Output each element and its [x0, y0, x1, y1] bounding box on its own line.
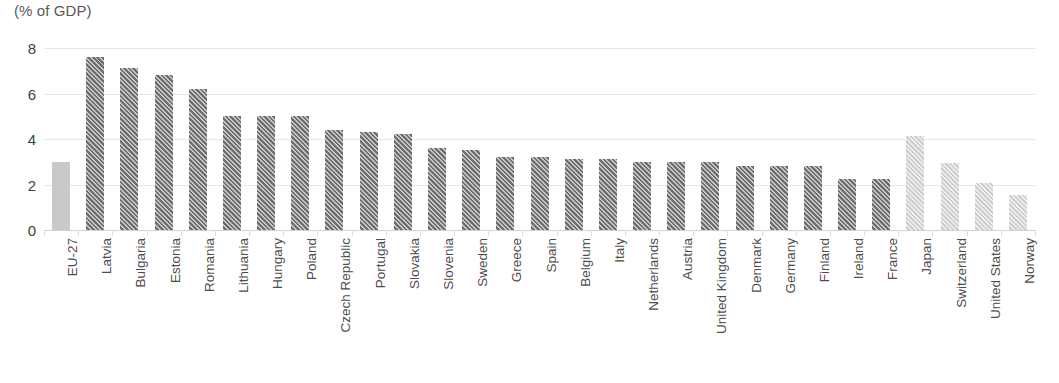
x-axis-category-label: Sweden	[476, 238, 490, 287]
bar	[155, 75, 173, 230]
x-axis-category-label: Norway	[1023, 238, 1037, 284]
chart-title: (% of GDP)	[14, 2, 92, 19]
x-axis-tick	[215, 230, 216, 236]
x-axis-category-label: Italy	[613, 238, 627, 263]
x-axis-category-label: United Kingdom	[715, 238, 729, 334]
y-axis-tick-label: 8	[6, 41, 36, 56]
x-axis-tick	[420, 230, 421, 236]
x-axis-category-label: Netherlands	[647, 238, 661, 311]
x-axis-category-label: Bulgaria	[134, 238, 148, 288]
y-axis-tick-label: 2	[6, 178, 36, 193]
x-axis-category-label: Portugal	[374, 238, 388, 288]
bar	[462, 150, 480, 230]
bar	[52, 162, 70, 230]
bar	[1009, 195, 1027, 230]
x-axis-tick	[78, 230, 79, 236]
x-axis-tick	[557, 230, 558, 236]
x-axis-tick	[352, 230, 353, 236]
x-axis-category-label: France	[886, 238, 900, 280]
x-axis-category-label: Slovakia	[408, 238, 422, 289]
bar	[496, 157, 514, 230]
bar	[599, 159, 617, 230]
bar	[189, 89, 207, 230]
bar	[360, 132, 378, 230]
x-axis-tick	[591, 230, 592, 236]
y-axis-tick-label: 0	[6, 223, 36, 238]
bar	[86, 57, 104, 230]
x-axis-tick	[898, 230, 899, 236]
x-axis-tick	[112, 230, 113, 236]
x-axis-category-label: Japan	[920, 238, 934, 275]
x-axis-tick	[454, 230, 455, 236]
x-axis-category-label: Latvia	[100, 238, 114, 274]
bar	[257, 116, 275, 230]
x-axis-category-label: Finland	[818, 238, 832, 282]
bar	[223, 116, 241, 230]
bar	[736, 166, 754, 230]
x-axis-category-label: Germany	[784, 238, 798, 294]
y-axis-tick-label: 6	[6, 87, 36, 102]
x-axis-tick	[796, 230, 797, 236]
x-axis-category-label: Belgium	[579, 238, 593, 287]
x-axis-tick	[1035, 230, 1036, 236]
x-axis-tick	[488, 230, 489, 236]
x-axis-labels: EU-27LatviaBulgariaEstoniaRomaniaLithuan…	[44, 238, 1035, 378]
x-axis-tick	[625, 230, 626, 236]
x-axis-category-label: EU-27	[66, 238, 80, 276]
bar	[428, 148, 446, 230]
x-axis-category-label: United States	[989, 238, 1003, 319]
bar	[531, 157, 549, 230]
bar	[565, 159, 583, 230]
bar	[838, 179, 856, 230]
x-axis-category-label: Slovenia	[442, 238, 456, 290]
bar	[804, 166, 822, 230]
bars-layer	[44, 48, 1035, 230]
bar	[325, 130, 343, 230]
bar	[667, 162, 685, 230]
bar	[872, 179, 890, 230]
x-axis-tick	[727, 230, 728, 236]
x-axis-category-label: Poland	[305, 238, 319, 280]
x-axis-tick	[317, 230, 318, 236]
bar	[291, 116, 309, 230]
x-axis-category-label: Denmark	[750, 238, 764, 293]
x-axis-tick	[932, 230, 933, 236]
bar	[941, 163, 959, 230]
x-axis-tick	[522, 230, 523, 236]
x-axis-ticks	[44, 230, 1035, 236]
bar-chart: (% of GDP) 02468 EU-27LatviaBulgariaEsto…	[0, 0, 1059, 383]
x-axis-tick	[249, 230, 250, 236]
x-axis-tick	[1001, 230, 1002, 236]
x-axis-category-label: Estonia	[169, 238, 183, 283]
x-axis-tick	[386, 230, 387, 236]
x-axis-tick	[147, 230, 148, 236]
x-axis-tick	[283, 230, 284, 236]
y-axis: 02468	[0, 48, 36, 230]
x-axis-tick	[762, 230, 763, 236]
x-axis-tick	[181, 230, 182, 236]
bar	[701, 162, 719, 230]
x-axis-category-label: Czech Republic	[339, 238, 353, 333]
x-axis-tick	[830, 230, 831, 236]
bar	[633, 162, 651, 230]
bar	[906, 136, 924, 230]
x-axis-tick	[659, 230, 660, 236]
bar	[394, 134, 412, 230]
x-axis-category-label: Ireland	[852, 238, 866, 279]
bar	[975, 183, 993, 230]
x-axis-tick	[864, 230, 865, 236]
x-axis-category-label: Romania	[203, 238, 217, 292]
y-axis-tick-label: 4	[6, 132, 36, 147]
bar	[770, 166, 788, 230]
bar	[120, 68, 138, 230]
x-axis-category-label: Austria	[681, 238, 695, 280]
x-axis-category-label: Hungary	[271, 238, 285, 289]
x-axis-category-label: Spain	[545, 238, 559, 273]
x-axis-category-label: Lithuania	[237, 238, 251, 293]
x-axis-tick	[967, 230, 968, 236]
x-axis-tick	[693, 230, 694, 236]
x-axis-category-label: Greece	[510, 238, 524, 282]
x-axis-tick	[44, 230, 45, 236]
x-axis-category-label: Switzerland	[955, 238, 969, 308]
